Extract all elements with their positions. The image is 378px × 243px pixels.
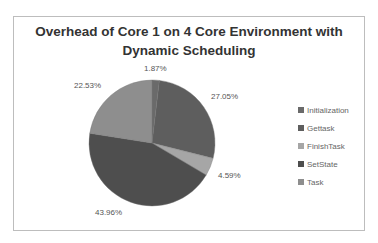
legend-swatch — [298, 161, 304, 167]
slice-label-setstate: 43.96% — [95, 208, 122, 217]
legend-swatch — [298, 107, 304, 113]
slice-label-initialization: 1.87% — [144, 64, 167, 73]
legend-swatch — [298, 143, 304, 149]
legend-item-task: Task — [298, 173, 349, 191]
slice-label-gettask: 27.05% — [211, 92, 238, 101]
legend-label: FinishTask — [307, 142, 345, 151]
legend-label: SetState — [307, 160, 338, 169]
slice-label-task: 22.53% — [74, 81, 101, 90]
legend-swatch — [298, 125, 304, 131]
slice-label-finishtask: 4.59% — [218, 171, 241, 180]
legend: Initialization Gettask FinishTask SetSta… — [298, 101, 349, 191]
legend-item-gettask: Gettask — [298, 119, 349, 137]
legend-label: Task — [307, 178, 323, 187]
legend-item-finishtask: FinishTask — [298, 137, 349, 155]
legend-item-initialization: Initialization — [298, 101, 349, 119]
legend-label: Gettask — [307, 124, 335, 133]
legend-item-setstate: SetState — [298, 155, 349, 173]
legend-swatch — [298, 179, 304, 185]
legend-label: Initialization — [307, 106, 349, 115]
